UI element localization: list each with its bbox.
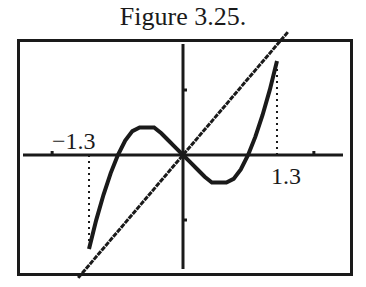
x-label-neg: −1.3 xyxy=(52,128,96,154)
x-label-pos: 1.3 xyxy=(271,163,301,189)
plot-area: −1.3 1.3 xyxy=(0,0,366,287)
